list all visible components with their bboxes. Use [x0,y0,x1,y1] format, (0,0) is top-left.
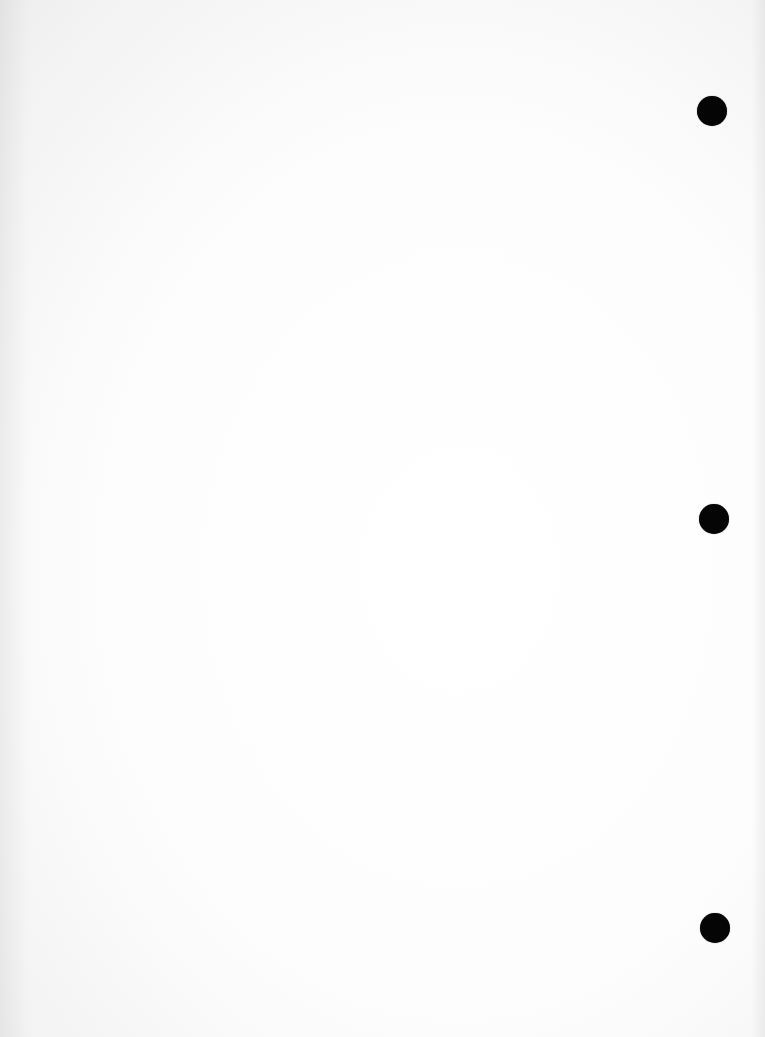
punch-hole-middle [699,504,729,534]
punch-hole-top [697,96,727,126]
punch-hole-bottom [700,913,730,943]
blank-page [0,0,765,1037]
